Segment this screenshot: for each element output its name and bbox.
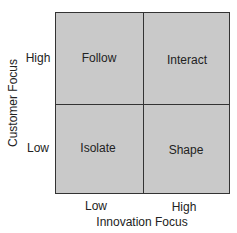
y-axis-label: Customer Focus [6,59,20,147]
quadrant-interact: Interact [167,53,207,67]
y-tick-high: High [26,51,51,65]
horizontal-divider [56,104,229,105]
vertical-divider [143,13,144,193]
x-tick-low: Low [85,199,107,213]
quadrant-grid [55,12,230,194]
x-tick-high: High [172,200,197,214]
quadrant-follow: Follow [82,51,117,65]
x-axis-label: Innovation Focus [96,215,187,229]
quadrant-shape: Shape [169,143,204,157]
y-tick-low: Low [27,141,49,155]
quadrant-isolate: Isolate [80,141,115,155]
